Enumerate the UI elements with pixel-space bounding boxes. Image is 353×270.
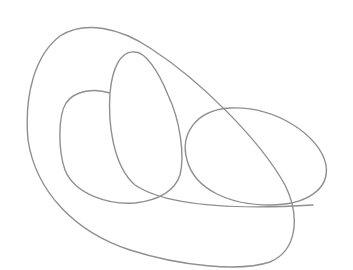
outer-loop xyxy=(27,27,294,266)
drawing-canvas xyxy=(0,0,353,270)
continuous-line-stroke xyxy=(27,27,326,266)
right-ellipse xyxy=(185,108,326,205)
line-drawing xyxy=(0,0,353,270)
